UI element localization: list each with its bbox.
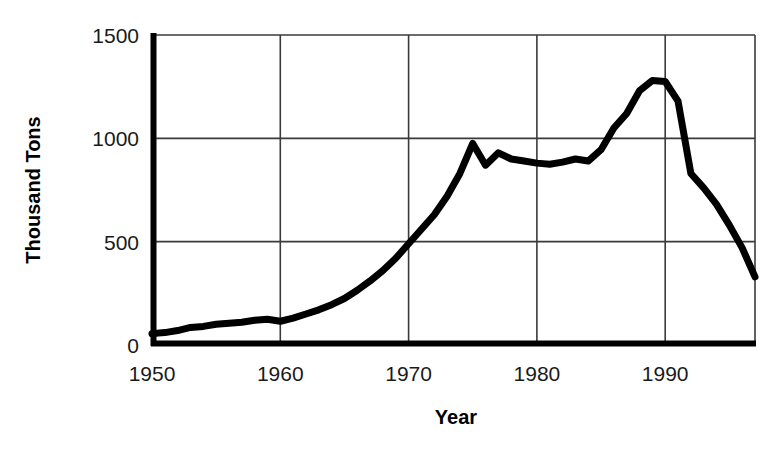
x-tick-1970: 1970	[385, 362, 432, 385]
x-axis-title: Year	[435, 406, 477, 428]
x-tick-1960: 1960	[257, 362, 304, 385]
x-tick-1950: 1950	[129, 362, 176, 385]
x-tick-1980: 1980	[514, 362, 561, 385]
line-chart: 19501960197019801990 050010001500 Year T…	[0, 0, 784, 450]
y-tick-1000: 1000	[92, 127, 139, 150]
y-axis-title: Thousand Tons	[22, 116, 44, 263]
y-tick-500: 500	[104, 231, 139, 254]
y-tick-labels: 050010001500	[92, 24, 139, 357]
x-tick-1990: 1990	[642, 362, 689, 385]
chart-figure: 19501960197019801990 050010001500 Year T…	[0, 0, 784, 450]
y-tick-0: 0	[127, 334, 139, 357]
y-tick-1500: 1500	[92, 24, 139, 47]
x-tick-labels: 19501960197019801990	[129, 362, 689, 385]
